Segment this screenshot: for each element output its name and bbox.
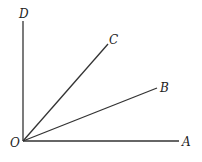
label-C: C	[109, 33, 118, 47]
angle-diagram: O A B C D	[0, 0, 202, 162]
ray-OB	[23, 88, 157, 141]
ray-OC	[23, 44, 108, 141]
label-B: B	[159, 81, 169, 95]
label-O: O	[10, 136, 20, 150]
label-D: D	[18, 7, 29, 21]
label-A: A	[181, 135, 191, 149]
